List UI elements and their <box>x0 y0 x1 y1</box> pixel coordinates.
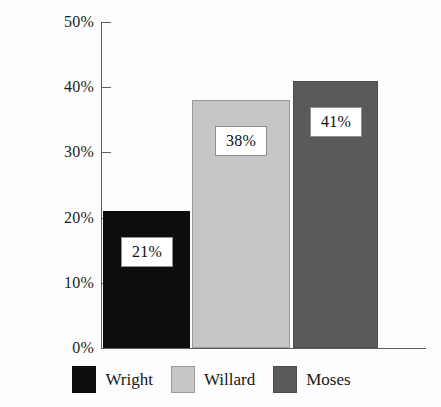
y-axis-tick-mark <box>102 152 111 153</box>
y-axis-tick-mark <box>102 348 111 349</box>
y-axis-tick-mark <box>102 22 111 23</box>
bar-wright <box>103 211 190 348</box>
y-axis-tick-label: 30% <box>38 144 94 160</box>
y-axis-tick-label-text: 10% <box>42 275 94 291</box>
legend-label-willard: Willard <box>204 371 255 388</box>
y-axis-tick-label: 10% <box>38 275 94 291</box>
chart-legend: WrightWillardMoses <box>0 362 441 396</box>
y-axis-line <box>101 22 102 349</box>
legend-swatch-wright <box>72 366 96 393</box>
y-axis-tick-label: 0% <box>38 340 94 356</box>
value-label-wright: 21% <box>121 237 173 267</box>
legend-swatch-willard <box>171 366 195 393</box>
y-axis-tick-label-text: 40% <box>42 79 94 95</box>
y-axis-tick-mark <box>102 87 111 88</box>
value-label-moses: 41% <box>310 107 362 137</box>
y-axis-tick-label-text: 50% <box>42 14 94 30</box>
legend-item-willard: Willard <box>171 366 273 393</box>
legend-label-moses: Moses <box>306 371 350 388</box>
bar-chart: 50%40%30%20%10%0% 21%38%41% WrightWillar… <box>0 0 441 407</box>
x-axis-line <box>101 348 426 349</box>
plot-area: 50%40%30%20%10%0% 21%38%41% <box>0 0 441 360</box>
legend-label-wright: Wright <box>105 371 152 388</box>
legend-swatch-moses <box>273 366 297 393</box>
y-axis-tick-label-text: 20% <box>42 210 94 226</box>
y-axis-tick-label-text: 0% <box>42 340 94 356</box>
value-label-willard: 38% <box>215 126 267 156</box>
y-axis-tick-label: 20% <box>38 210 94 226</box>
y-axis-tick-label: 40% <box>38 79 94 95</box>
legend-item-wright: Wright <box>72 366 170 393</box>
y-axis-tick-label: 50% <box>38 14 94 30</box>
y-axis-tick-label-text: 30% <box>42 144 94 160</box>
legend-item-moses: Moses <box>273 366 368 393</box>
